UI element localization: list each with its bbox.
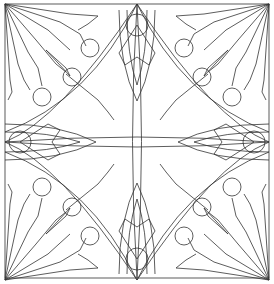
motif-bottom	[119, 10, 155, 101]
coloring-page-canvas	[0, 0, 274, 284]
center-horizontal-lens	[5, 137, 269, 147]
quadrant-top-right	[137, 4, 269, 142]
quadrant-bottom-right	[137, 142, 269, 280]
motif-right	[178, 124, 269, 160]
motif-left	[5, 124, 96, 160]
motif-top	[119, 183, 155, 274]
mandala-artwork	[0, 0, 274, 284]
frame-border	[5, 4, 269, 278]
quadrant-top-left	[5, 4, 137, 142]
quadrant-bottom-left	[5, 142, 137, 280]
center-vertical-lens	[133, 4, 142, 278]
